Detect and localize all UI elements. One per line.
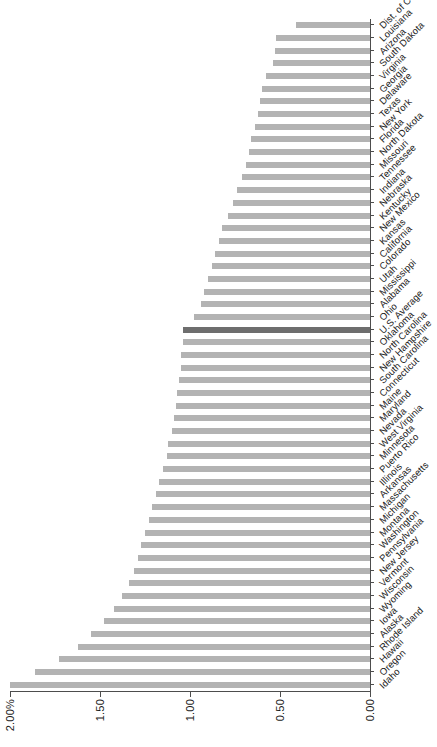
category-axis-tick: [370, 240, 374, 241]
category-axis-tick: [370, 468, 374, 469]
bar: [129, 580, 370, 586]
category-axis-tick: [370, 316, 374, 317]
bar: [35, 669, 370, 675]
rotated-figure-wrapper: 2.00%1.501.000.500.00 IdahoOregonHawaiiR…: [0, 0, 437, 747]
bar: [163, 466, 370, 472]
category-axis-tick: [370, 646, 374, 647]
bar: [176, 403, 370, 409]
bar: [204, 289, 370, 295]
category-axis-tick: [370, 595, 374, 596]
category-axis-tick: [370, 557, 374, 558]
bar: [183, 327, 370, 333]
category-axis-tick: [370, 265, 374, 266]
bar: [78, 644, 370, 650]
bar: [91, 631, 370, 637]
category-axis-tick: [370, 582, 374, 583]
category-axis-tick: [370, 24, 374, 25]
bar: [251, 136, 370, 142]
value-axis: 2.00%1.501.000.500.00: [10, 691, 371, 692]
value-axis-tick: [370, 692, 371, 697]
bar: [183, 339, 370, 345]
category-axis-tick: [370, 519, 374, 520]
bar: [258, 111, 370, 117]
category-axis-tick: [370, 405, 374, 406]
bar: [145, 530, 370, 536]
category-axis-tick: [370, 62, 374, 63]
category-axis-tick: [370, 570, 374, 571]
category-axis-tick: [370, 341, 374, 342]
value-axis-label: 0.00: [364, 699, 376, 721]
category-axis-tick: [370, 291, 374, 292]
bar: [152, 504, 370, 510]
bar: [159, 479, 370, 485]
category-axis-tick: [370, 417, 374, 418]
bar: [262, 86, 370, 92]
bar: [181, 352, 370, 358]
category-axis-tick: [370, 608, 374, 609]
category-axis-tick: [370, 506, 374, 507]
bar: [149, 517, 370, 523]
category-axis-tick: [370, 620, 374, 621]
category-axis-tick: [370, 189, 374, 190]
category-axis-tick: [370, 75, 374, 76]
bar: [134, 568, 370, 574]
bar: [233, 200, 370, 206]
value-axis-tick: [10, 692, 11, 697]
bar: [122, 593, 370, 599]
bar: [138, 555, 370, 561]
bar: [228, 213, 370, 219]
bar: [249, 149, 370, 155]
category-axis-tick: [370, 684, 374, 685]
bar: [104, 618, 370, 624]
bar: [260, 98, 370, 104]
value-axis-label: 1.50: [94, 699, 106, 721]
bar-chart-figure: 2.00%1.501.000.500.00 IdahoOregonHawaiiR…: [0, 0, 437, 747]
bar: [255, 124, 370, 130]
category-axis-tick: [370, 177, 374, 178]
category-axis-tick: [370, 113, 374, 114]
category-axis-tick: [370, 164, 374, 165]
bar: [59, 656, 370, 662]
bar: [201, 301, 370, 307]
bar: [275, 48, 370, 54]
bar: [296, 22, 370, 28]
category-axis-tick: [370, 455, 374, 456]
value-axis-label: 0.50: [274, 699, 286, 721]
category-axis-tick: [370, 544, 374, 545]
bar: [168, 441, 370, 447]
bar: [114, 606, 370, 612]
bar: [242, 175, 370, 181]
category-axis-tick: [370, 532, 374, 533]
category-axis-tick: [370, 202, 374, 203]
bar: [194, 314, 370, 320]
category-axis-tick: [370, 367, 374, 368]
plot-area: [10, 19, 370, 691]
value-axis-tick: [190, 692, 191, 697]
category-axis-tick: [370, 253, 374, 254]
bar: [172, 428, 370, 434]
bar: [177, 390, 370, 396]
category-axis-tick: [370, 88, 374, 89]
bar: [208, 276, 370, 282]
category-axis-tick: [370, 100, 374, 101]
category-axis-tick: [370, 126, 374, 127]
category-axis-tick: [370, 151, 374, 152]
value-axis-label: 1.00: [184, 699, 196, 721]
bar: [212, 263, 370, 269]
category-axis-tick: [370, 278, 374, 279]
category-axis-tick: [370, 354, 374, 355]
value-axis-label: 2.00%: [4, 699, 16, 731]
bar: [215, 251, 370, 257]
value-axis-tick: [100, 692, 101, 697]
bar: [222, 225, 370, 231]
category-axis-tick: [370, 227, 374, 228]
category-axis-tick: [370, 138, 374, 139]
category-axis-tick: [370, 658, 374, 659]
bar: [167, 453, 370, 459]
bar: [266, 73, 370, 79]
bar: [237, 187, 370, 193]
category-axis: IdahoOregonHawaiiRhode IslandAlaskaIowaW…: [370, 19, 371, 691]
category-axis-tick: [370, 50, 374, 51]
bar: [179, 377, 370, 383]
category-axis-tick: [370, 481, 374, 482]
